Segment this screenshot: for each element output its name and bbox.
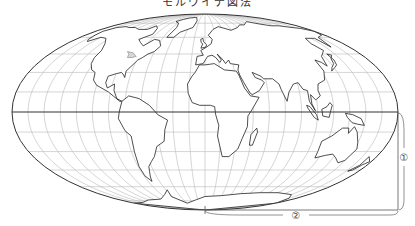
borneo [322, 103, 333, 118]
south-america [118, 96, 167, 181]
annotation-label-2: ② [292, 210, 301, 221]
landmasses [87, 17, 369, 210]
annotation-label-1: ① [400, 152, 409, 163]
madagascar [249, 128, 257, 145]
bracket-2 [205, 211, 398, 215]
sumatra [307, 105, 319, 120]
britain [201, 38, 207, 48]
new-guinea [345, 113, 364, 125]
world-map: ② ① [0, 0, 415, 226]
japan [327, 54, 337, 71]
new-zealand [348, 157, 370, 172]
